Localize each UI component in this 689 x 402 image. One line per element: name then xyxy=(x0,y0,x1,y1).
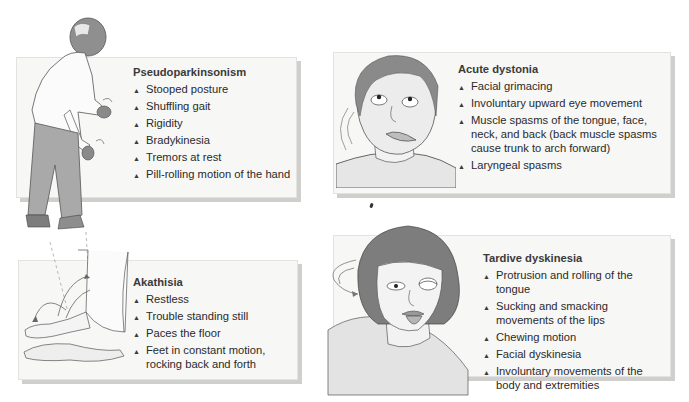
list-item: ▲Laryngeal spasms xyxy=(458,158,658,172)
panel-title: Akathisia xyxy=(133,275,283,289)
triangle-bullet-icon: ▲ xyxy=(133,311,140,325)
list-item: ▲Bradykinesia xyxy=(133,133,293,147)
panel-title: Pseudoparkinsonism xyxy=(133,65,293,79)
triangle-bullet-icon: ▲ xyxy=(133,328,140,342)
stooped-man-illustration xyxy=(0,15,120,240)
panel-title: Acute dystonia xyxy=(458,62,658,76)
list-item: ▲Feet in constant motion, rocking back a… xyxy=(133,343,276,371)
triangle-bullet-icon: ▲ xyxy=(133,118,140,132)
tardive-dyskinesia-text: Tardive dyskinesia ▲Protrusion and rolli… xyxy=(483,251,663,395)
list-item: ▲Sucking and smacking movements of the l… xyxy=(483,299,666,327)
triangle-bullet-icon: ▲ xyxy=(458,98,465,112)
triangle-bullet-icon: ▲ xyxy=(483,366,490,380)
akathisia-feet-illustration xyxy=(20,232,135,367)
triangle-bullet-icon: ▲ xyxy=(458,81,465,95)
triangle-bullet-icon: ▲ xyxy=(133,135,140,149)
list-item: ▲Chewing motion xyxy=(483,330,663,344)
triangle-bullet-icon: ▲ xyxy=(483,270,490,284)
triangle-bullet-icon: ▲ xyxy=(483,332,490,346)
akathisia-text: Akathisia ▲Restless ▲Trouble standing st… xyxy=(133,275,283,374)
list-item: ▲Pill-rolling motion of the hand xyxy=(133,167,293,181)
tardive-dyskinesia-face-illustration xyxy=(318,220,478,400)
list-item: ▲Facial grimacing xyxy=(458,79,658,93)
triangle-bullet-icon: ▲ xyxy=(133,345,140,359)
list-item: ▲Paces the floor xyxy=(133,326,283,340)
list-item: ▲Restless xyxy=(133,292,283,306)
list-item: ▲Involuntary movements of the body and e… xyxy=(483,364,666,392)
stray-mark xyxy=(369,203,374,209)
list-item: ▲Muscle spasms of the tongue, face, neck… xyxy=(458,113,661,155)
triangle-bullet-icon: ▲ xyxy=(458,160,465,174)
list-item: ▲Protrusion and rolling of the tongue xyxy=(483,268,663,296)
panel-title: Tardive dyskinesia xyxy=(483,251,663,265)
triangle-bullet-icon: ▲ xyxy=(458,115,465,129)
list-item: ▲Shuffling gait xyxy=(133,99,293,113)
triangle-bullet-icon: ▲ xyxy=(133,101,140,115)
list-item: ▲Involuntary upward eye movement xyxy=(458,96,658,110)
list-item: ▲Tremors at rest xyxy=(133,150,293,164)
list-item: ▲Stooped posture xyxy=(133,82,293,96)
list-item: ▲Facial dyskinesia xyxy=(483,347,663,361)
triangle-bullet-icon: ▲ xyxy=(133,169,140,183)
pseudoparkinsonism-text: Pseudoparkinsonism ▲Stooped posture ▲Shu… xyxy=(133,65,293,184)
acute-dystonia-text: Acute dystonia ▲Facial grimacing ▲Involu… xyxy=(458,62,658,175)
triangle-bullet-icon: ▲ xyxy=(133,152,140,166)
acute-dystonia-face-illustration xyxy=(336,46,456,188)
triangle-bullet-icon: ▲ xyxy=(483,349,490,363)
triangle-bullet-icon: ▲ xyxy=(133,84,140,98)
list-item: ▲Rigidity xyxy=(133,116,293,130)
triangle-bullet-icon: ▲ xyxy=(133,294,140,308)
list-item: ▲Trouble standing still xyxy=(133,309,283,323)
triangle-bullet-icon: ▲ xyxy=(483,301,490,315)
